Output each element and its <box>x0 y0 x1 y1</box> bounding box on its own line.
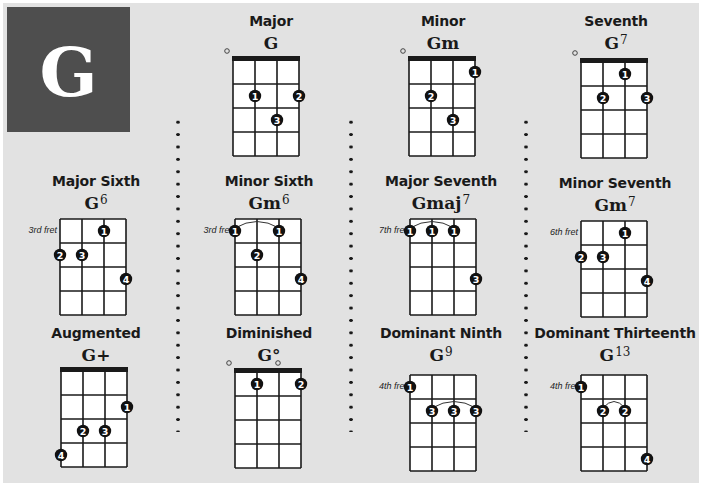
fretboard-diagram: 1234 <box>60 219 126 315</box>
chord-name: Gm <box>355 33 531 53</box>
svg-text:2: 2 <box>296 91 303 102</box>
chord-name: G+ <box>8 345 184 365</box>
svg-text:3: 3 <box>473 274 480 285</box>
chord-title: Dominant Ninth <box>353 325 529 341</box>
svg-text:1: 1 <box>124 402 131 413</box>
key-letter: G <box>39 38 97 106</box>
fret-position-label: 4th fret <box>550 381 578 391</box>
chord-name-base: G+ <box>82 345 111 365</box>
svg-text:4: 4 <box>58 450 65 461</box>
chord-name-superscript: 9 <box>445 345 453 359</box>
chord-augmented: AugmentedG+1234 <box>8 325 184 485</box>
chord-minor-sixth: Minor SixthGm63rd fret1124 <box>181 173 357 333</box>
chord-name-superscript: 6 <box>282 193 290 207</box>
svg-text:4: 4 <box>644 454 651 465</box>
chord-name-base: Gm <box>427 33 460 53</box>
chord-name-base: Gm <box>594 195 627 215</box>
fretboard-diagram: 1333 <box>410 375 476 471</box>
svg-text:2: 2 <box>600 93 607 104</box>
chord-title: Major Seventh <box>353 173 529 189</box>
chord-dominant-ninth: Dominant NinthG94th fret1333 <box>353 325 529 485</box>
chord-title: Minor Seventh <box>527 175 701 191</box>
fretboard-diagram: 123 <box>581 62 647 158</box>
svg-text:3: 3 <box>600 252 607 263</box>
svg-text:2: 2 <box>254 250 261 261</box>
fretboard-diagram: 1124 <box>235 219 301 315</box>
chord-name-base: G <box>264 33 279 53</box>
svg-text:1: 1 <box>101 226 108 237</box>
chord-name: G7 <box>528 33 701 53</box>
fretboard-diagram: 12 <box>235 372 301 468</box>
fretboard-diagram: 123 <box>409 60 475 156</box>
chord-name: Gm7 <box>527 195 701 215</box>
chord-title: Seventh <box>528 13 701 29</box>
chord-title: Minor Sixth <box>181 173 357 189</box>
svg-text:1: 1 <box>252 91 259 102</box>
key-block: G <box>7 7 130 132</box>
chord-name-base: Gmaj <box>412 193 462 213</box>
chord-title: Major Sixth <box>8 173 184 189</box>
svg-text:1: 1 <box>429 226 436 237</box>
svg-text:4: 4 <box>298 274 305 285</box>
svg-text:3: 3 <box>274 115 281 126</box>
chord-dominant-thirteenth: Dominant ThirteenthG134th fret1224 <box>527 325 701 485</box>
chord-name-superscript: 13 <box>615 345 630 359</box>
svg-text:2: 2 <box>600 406 607 417</box>
svg-text:2: 2 <box>428 91 435 102</box>
fretboard-diagram: 1224 <box>581 375 647 471</box>
fretboard-diagram: 123 <box>233 60 299 156</box>
svg-text:2: 2 <box>80 426 87 437</box>
chord-title: Minor <box>355 13 531 29</box>
fretboard-diagram: 1113 <box>410 219 476 315</box>
svg-text:3: 3 <box>429 406 436 417</box>
svg-text:2: 2 <box>578 252 585 263</box>
chord-name-superscript: 6 <box>100 193 108 207</box>
chord-major: MajorG123 <box>183 13 359 173</box>
chord-major-seventh: Major SeventhGmaj77th fret1113 <box>353 173 529 333</box>
chord-name-base: G <box>600 345 615 365</box>
svg-text:1: 1 <box>622 69 629 80</box>
chord-name-base: Gm <box>248 193 281 213</box>
chord-name: G6 <box>8 193 184 213</box>
svg-text:1: 1 <box>276 226 283 237</box>
chord-major-sixth: Major SixthG63rd fret1234 <box>8 173 184 333</box>
chord-name-base: G <box>84 193 99 213</box>
fret-position-label: 3rd fret <box>203 225 232 235</box>
chord-title: Dominant Thirteenth <box>527 325 701 341</box>
svg-text:2: 2 <box>298 379 305 390</box>
chord-seventh: SeventhG7123 <box>528 13 701 173</box>
svg-text:3: 3 <box>79 250 86 261</box>
svg-text:3: 3 <box>451 406 458 417</box>
chord-name-base: G <box>429 345 444 365</box>
chord-name: Gmaj7 <box>353 193 529 213</box>
chord-title: Augmented <box>8 325 184 341</box>
svg-text:4: 4 <box>644 276 651 287</box>
svg-text:4: 4 <box>123 274 130 285</box>
fret-position-label: 4th fret <box>379 381 407 391</box>
chord-diminished: DiminishedG°12 <box>181 325 357 485</box>
chord-name-base: G° <box>257 345 280 365</box>
svg-text:3: 3 <box>102 426 109 437</box>
svg-text:1: 1 <box>578 382 585 393</box>
fretboard-diagram: 1234 <box>61 371 127 467</box>
chord-title: Diminished <box>181 325 357 341</box>
chord-chart-page: G MajorG123 MinorGm123 SeventhG7123 Majo… <box>3 3 699 483</box>
svg-text:2: 2 <box>622 406 629 417</box>
svg-text:1: 1 <box>622 228 629 239</box>
chord-name: Gm6 <box>181 193 357 213</box>
svg-text:1: 1 <box>472 67 479 78</box>
fret-position-label: 6th fret <box>550 227 578 237</box>
chord-name-superscript: 7 <box>628 195 636 209</box>
svg-text:2: 2 <box>57 250 64 261</box>
chord-name: G9 <box>353 345 529 365</box>
fret-position-label: 3rd fret <box>28 225 57 235</box>
svg-text:1: 1 <box>254 379 261 390</box>
chord-name: G13 <box>527 345 701 365</box>
svg-text:1: 1 <box>407 226 414 237</box>
chord-name-superscript: 7 <box>463 193 471 207</box>
chord-name: G° <box>181 345 357 365</box>
chord-name-superscript: 7 <box>620 33 628 47</box>
chord-minor: MinorGm123 <box>355 13 531 173</box>
fretboard-diagram: 1234 <box>581 221 647 317</box>
svg-text:3: 3 <box>450 115 457 126</box>
